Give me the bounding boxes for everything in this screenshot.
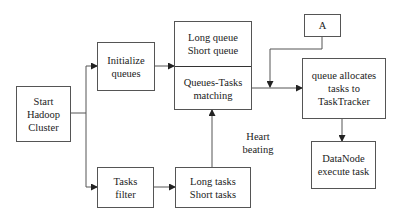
node-label: Start — [27, 95, 60, 108]
node-label: DataNode — [318, 152, 370, 165]
node-label: tasks to — [312, 82, 376, 95]
a-connector-node: A — [304, 14, 341, 37]
queues-tasks-matching-section: Queues-Tasks matching — [175, 68, 251, 110]
start-hadoop-cluster-node: Start Hadoop Cluster — [16, 86, 71, 142]
node-label: Long tasks — [190, 175, 236, 188]
node-label: Queues-Tasks — [184, 76, 243, 89]
node-label: queue allocates — [312, 69, 376, 82]
node-label: filter — [114, 188, 138, 201]
node-label: Cluster — [27, 121, 60, 134]
node-label: execute task — [318, 165, 370, 178]
datanode-execute-node: DataNode execute task — [311, 141, 376, 189]
node-label: queues — [107, 67, 144, 80]
queue-allocates-node: queue allocates tasks to TaskTracker — [302, 58, 386, 119]
node-label: Initialize — [107, 54, 144, 67]
long-short-tasks-node: Long tasks Short tasks — [175, 167, 251, 208]
node-label: matching — [193, 89, 232, 102]
node-label: Hadoop — [27, 108, 60, 121]
node-label: TaskTracker — [312, 95, 376, 108]
long-short-queue-section: Long queue Short queue — [175, 22, 251, 67]
node-label: Short tasks — [190, 188, 236, 201]
tasks-filter-node: Tasks filter — [97, 167, 154, 208]
node-label: Tasks — [114, 175, 138, 188]
edge-label: Heart — [236, 130, 280, 143]
node-label: Long queue — [188, 31, 238, 44]
heartbeat-edge-label: Heart beating — [236, 130, 280, 156]
initialize-queues-node: Initialize queues — [97, 42, 155, 91]
queues-matching-node: Long queue Short queue Queues-Tasks matc… — [174, 21, 252, 110]
edge-label: beating — [236, 143, 280, 156]
node-label: Short queue — [188, 44, 238, 57]
node-label: A — [319, 19, 327, 32]
